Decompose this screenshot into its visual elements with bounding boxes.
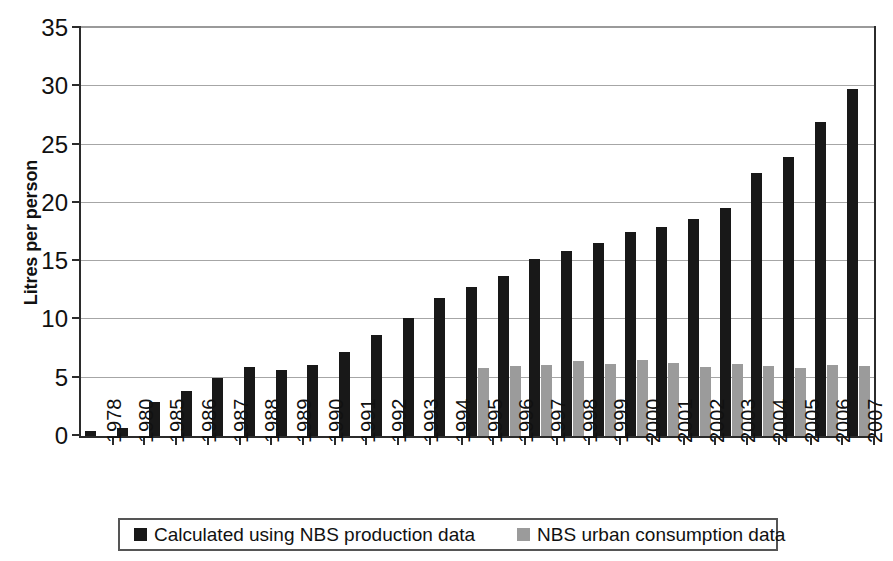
chart-legend: Calculated using NBS production data NBS… [118,518,778,551]
y-axis-tick-label: 30 [22,74,68,98]
x-axis-tick-label: 1978 [104,373,124,443]
x-axis-tick-label: 1986 [199,373,219,443]
y-axis-tick [72,143,81,145]
legend-label-production: Calculated using NBS production data [154,525,475,544]
y-axis-tick-label: 25 [22,133,68,157]
x-axis-tick-label: 1990 [326,373,346,443]
y-axis-tick-label: 20 [22,191,68,215]
legend-swatch-production [134,528,147,541]
x-axis-tick-label: 2003 [738,373,758,443]
x-axis-tick-label: 1980 [136,373,156,443]
x-axis-tick-label: 1999 [611,373,631,443]
x-axis-tick-label: 1985 [167,373,187,443]
y-axis-tick [72,259,81,261]
x-axis-tick-label: 1987 [231,373,251,443]
x-axis-tick-label: 2004 [770,373,790,443]
y-axis-tick-label: 10 [22,307,68,331]
y-axis-tick-label: 0 [22,424,68,448]
x-axis-tick-label: 2002 [707,373,727,443]
x-axis-tick-label: 1988 [262,373,282,443]
legend-item-consumption[interactable]: NBS urban consumption data [517,525,785,544]
bar-chart-figure: Litres per person 05101520253035 1978198… [0,0,893,561]
y-axis-tick [72,434,81,436]
x-axis-tick-label: 1998 [580,373,600,443]
x-axis-tick-label: 1991 [358,373,378,443]
x-axis-tick-label: 1995 [485,373,505,443]
x-axis-tick-label: 2005 [802,373,822,443]
x-axis-tick-label: 1994 [453,373,473,443]
x-axis-tick-label: 1992 [389,373,409,443]
x-axis-tick-label: 2006 [833,373,853,443]
y-axis-tick-label: 35 [22,16,68,40]
y-axis-tick [72,84,81,86]
y-axis-tick-label: 15 [22,249,68,273]
x-axis-tick-label: 1989 [294,373,314,443]
x-axis-tick-label: 2007 [865,373,885,443]
y-axis-tick-label: 5 [22,366,68,390]
y-axis-tick [72,201,81,203]
y-axis-tick [72,376,81,378]
x-axis-tick-label: 1993 [421,373,441,443]
bar-production[interactable] [85,431,96,436]
legend-item-production[interactable]: Calculated using NBS production data [134,525,475,544]
x-axis-tick-label: 1996 [516,373,536,443]
legend-swatch-consumption [517,528,530,541]
legend-label-consumption: NBS urban consumption data [537,525,785,544]
x-axis-tick-label: 2000 [643,373,663,443]
x-axis-tick-label: 1997 [548,373,568,443]
y-axis-tick [72,26,81,28]
y-axis-tick [72,317,81,319]
x-axis-tick-label: 2001 [675,373,695,443]
